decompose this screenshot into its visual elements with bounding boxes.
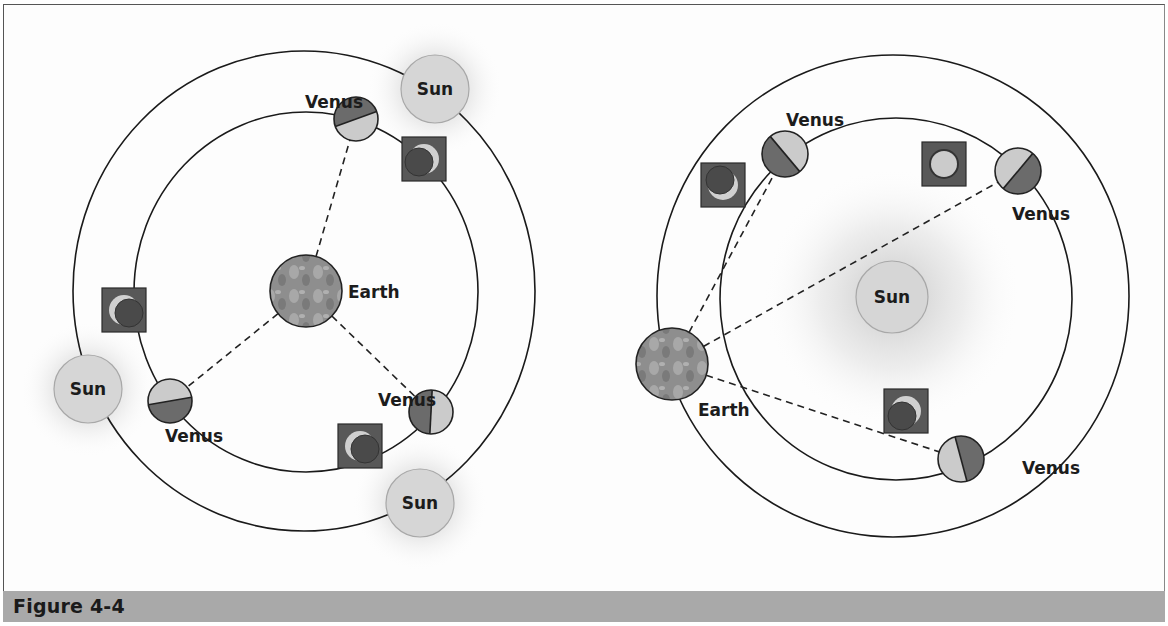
venus: Venus	[938, 436, 1080, 482]
venus-phase-icon	[884, 389, 928, 433]
body-label: Venus	[1022, 458, 1080, 478]
earth: Earth	[270, 255, 400, 327]
body-label: Venus	[378, 390, 436, 410]
body-label: Earth	[348, 282, 400, 302]
venus: Venus	[995, 148, 1070, 224]
figure-caption-bar: Figure 4-4	[3, 591, 1165, 622]
full-phase-icon	[931, 151, 957, 177]
venus-phase-icon	[338, 424, 382, 468]
body-label: Venus	[305, 92, 363, 112]
venus-phases-diagram: SunSunSunVenusVenusVenusEarth SunVenusVe…	[0, 0, 1168, 626]
crescent-phase-icon	[351, 435, 379, 463]
earth-icon	[636, 328, 708, 400]
heliocentric-diagram: SunVenusVenusVenusEarth	[636, 55, 1129, 537]
sun: Sun	[386, 469, 454, 537]
sun: Sun	[856, 261, 928, 333]
geocentric-diagram: SunSunSunVenusVenusVenusEarth	[20, 21, 535, 571]
venus-phase-icon	[402, 137, 446, 181]
body-label: Sun	[402, 493, 438, 513]
venus: Venus	[762, 110, 844, 177]
body-label: Venus	[165, 426, 223, 446]
crescent-phase-icon	[888, 402, 916, 430]
body-label: Venus	[786, 110, 844, 130]
earth: Earth	[636, 328, 750, 420]
body-label: Sun	[417, 79, 453, 99]
venus-phase-icon	[701, 163, 745, 207]
venus: Venus	[378, 390, 453, 434]
sun: Sun	[54, 355, 122, 423]
venus: Venus	[305, 92, 378, 141]
body-label: Sun	[70, 379, 106, 399]
crescent-phase-icon	[115, 299, 143, 327]
earth-icon	[270, 255, 342, 327]
body-label: Venus	[1012, 204, 1070, 224]
venus-phase-icon	[102, 288, 146, 332]
crescent-phase-icon	[706, 166, 734, 194]
figure-caption: Figure 4-4	[13, 595, 125, 617]
body-label: Earth	[698, 400, 750, 420]
body-label: Sun	[874, 287, 910, 307]
crescent-phase-icon	[405, 148, 433, 176]
sun: Sun	[401, 55, 469, 123]
venus-phase-icon	[922, 142, 966, 186]
venus: Venus	[148, 379, 223, 446]
